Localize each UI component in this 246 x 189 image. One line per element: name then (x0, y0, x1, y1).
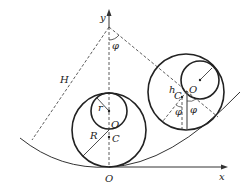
right-C-label: C (174, 90, 182, 101)
large-radius-label: R (89, 130, 98, 141)
x-axis-arrow-icon (221, 165, 228, 170)
origin-label: O (105, 173, 113, 184)
length-H-label: H (59, 74, 69, 85)
pivot-angle-label: φ (112, 40, 119, 51)
y-axis-label: y (99, 12, 106, 23)
right-angle-label-1: φ (175, 106, 182, 117)
left-C-label: C (112, 133, 120, 144)
right-O-label: O (189, 84, 197, 95)
length-H-line (32, 27, 109, 140)
curved-track (20, 92, 240, 167)
small-radius-label: r (98, 102, 104, 113)
left-C-dot (108, 136, 110, 138)
x-axis-label: x (219, 171, 225, 182)
right-radius-line (200, 68, 212, 80)
right-angle-label-2: φ (190, 104, 197, 115)
diagram-canvas: y x O φ H r R O C h C O φ φ (0, 0, 246, 189)
y-axis-arrow-icon (107, 9, 112, 16)
right-angle-arc-2 (187, 99, 196, 101)
left-O-label: O (111, 119, 119, 130)
